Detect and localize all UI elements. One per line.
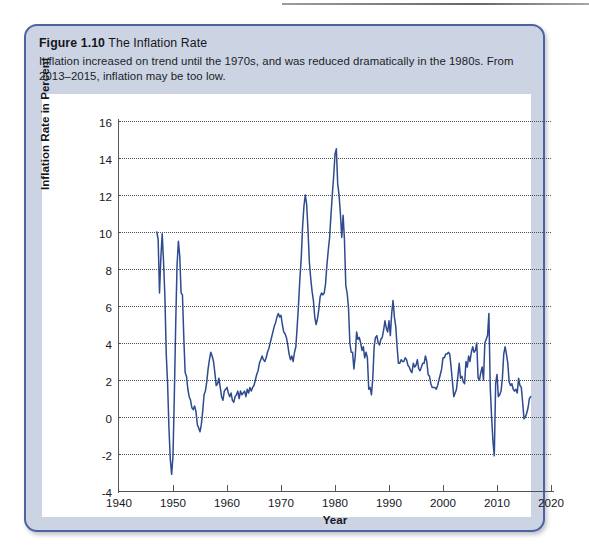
y-tick-label: 12 — [99, 190, 112, 203]
y-gridline: -4 — [119, 491, 551, 492]
x-tick-label: 1980 — [322, 496, 348, 509]
y-tick-label: 6 — [106, 301, 112, 314]
x-tick-mark — [281, 485, 282, 491]
chart-plot-panel: -4-2024681012141619401950196019701980199… — [42, 94, 531, 517]
y-gridline: 12 — [119, 195, 551, 196]
figure-description: Inflation increased on trend until the 1… — [39, 54, 529, 84]
figure-caption: Figure 1.10 The Inflation Rate Inflation… — [39, 35, 529, 84]
y-gridline: 8 — [119, 269, 551, 270]
x-axis-title: Year — [119, 513, 551, 526]
x-tick-label: 1960 — [214, 496, 240, 509]
y-gridline: 4 — [119, 343, 551, 344]
x-tick-mark — [227, 485, 228, 491]
y-tick-label: 10 — [99, 227, 112, 240]
x-tick-mark — [173, 485, 174, 491]
y-gridline: 0 — [119, 417, 551, 418]
x-tick-label: 1970 — [268, 496, 294, 509]
series-line — [157, 149, 531, 475]
x-tick-label: 2010 — [484, 496, 510, 509]
y-tick-label: 4 — [106, 338, 112, 351]
chart-axes-area: -4-2024681012141619401950196019701980199… — [119, 121, 551, 491]
x-tick-label: 2020 — [538, 496, 564, 509]
y-tick-label: 16 — [99, 116, 112, 129]
x-tick-mark — [497, 485, 498, 491]
x-tick-label: 1940 — [106, 496, 132, 509]
y-tick-label: -2 — [102, 449, 112, 462]
y-gridline: 14 — [119, 158, 551, 159]
y-axis-title: Inflation Rate in Percent — [38, 0, 51, 190]
x-tick-mark — [443, 485, 444, 491]
x-tick-mark — [389, 485, 390, 491]
y-gridline: 16 — [119, 121, 551, 122]
figure-title: Figure 1.10 The Inflation Rate — [39, 35, 529, 52]
y-tick-label: 2 — [106, 375, 112, 388]
x-tick-label: 1950 — [160, 496, 186, 509]
y-gridline: 2 — [119, 380, 551, 381]
y-tick-label: 0 — [106, 412, 112, 425]
y-gridline: -2 — [119, 454, 551, 455]
figure-box: Figure 1.10 The Inflation Rate Inflation… — [24, 24, 545, 532]
y-tick-label: 8 — [106, 264, 112, 277]
x-tick-label: 1990 — [376, 496, 402, 509]
y-tick-label: 14 — [99, 153, 112, 166]
y-gridline: 6 — [119, 306, 551, 307]
y-gridline: 10 — [119, 232, 551, 233]
x-tick-mark — [335, 485, 336, 491]
x-tick-label: 2000 — [430, 496, 456, 509]
page-top-rule — [282, 3, 589, 5]
x-tick-mark — [551, 485, 552, 491]
figure-name: The Inflation Rate — [105, 36, 207, 50]
